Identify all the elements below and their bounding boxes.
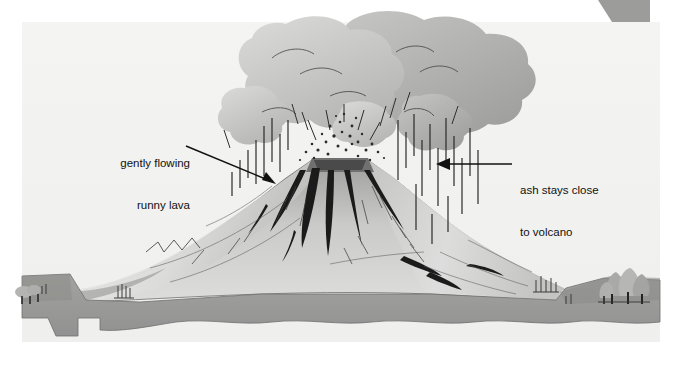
lava-label: gently flowing runny lava: [82, 128, 190, 240]
cloud-fragment-top-right: [598, 0, 650, 22]
lava-label-line2: runny lava: [82, 198, 190, 212]
ash-label-line1: ash stays close: [520, 183, 660, 197]
crater-mouth: [314, 160, 366, 170]
volcano-diagram: gently flowing runny lava ash stays clos…: [0, 0, 673, 372]
lava-label-line1: gently flowing: [82, 156, 190, 170]
ash-label-line2: to volcano: [520, 225, 660, 239]
ash-label: ash stays close to volcano: [520, 155, 660, 267]
